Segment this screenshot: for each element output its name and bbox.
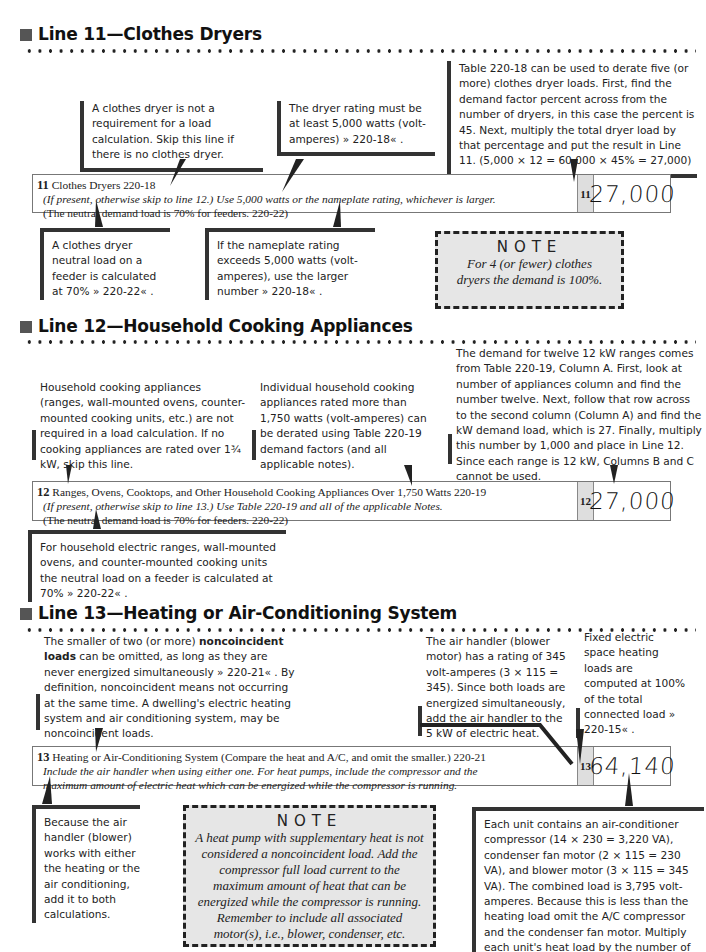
section-heading-line-13: Line 13—Heating or Air-Conditioning Syst… — [20, 603, 457, 623]
form-line-description: 13 Heating or Air-Conditioning System (C… — [37, 750, 486, 792]
callout-air-handler-both: Because the air handler (blower) works w… — [32, 805, 140, 923]
callout-nameplate-exceeds: If the nameplate rating exceeds 5,000 wa… — [205, 228, 375, 300]
dotted-rule — [24, 339, 696, 345]
form-line-description: 12 Ranges, Ovens, Cooktops, and Other Ho… — [37, 485, 486, 527]
section-heading-line-12: Line 12—Household Cooking Appliances — [20, 316, 413, 336]
callout-each-unit: Each unit contains an air-conditioner co… — [472, 807, 704, 952]
note-box-heat-pump: NOTE A heat pump with supplementary heat… — [183, 805, 436, 947]
line-value[interactable]: 27,000 — [594, 175, 672, 212]
form-line-description: 11 Clothes Dryers 220-18 (If present, ot… — [37, 178, 496, 220]
callout-cooking-neutral: For household electric ranges, wall-moun… — [28, 530, 286, 602]
square-bullet-icon — [20, 321, 32, 333]
callout-dryer-not-required: A clothes dryer is not a requirement for… — [80, 101, 263, 172]
callout-cooking-derated: Individual household cooking appliances … — [252, 380, 432, 477]
note-box-dryers: NOTE For 4 (or fewer) clothes dryers the… — [435, 231, 624, 309]
callout-air-handler: The air handler (blower motor) has a rat… — [418, 634, 568, 747]
callout-noncoincident: The smaller of two (or more) noncoincide… — [36, 634, 296, 747]
line-value[interactable]: 64,140 — [594, 747, 672, 785]
line-value[interactable]: 27,000 — [594, 482, 672, 520]
callout-dryer-rating: The dryer rating must be at least 5,000 … — [277, 101, 435, 156]
dotted-rule — [24, 48, 696, 54]
callout-cooking-not-required: Household cooking appliances (ranges, wa… — [32, 380, 246, 477]
callout-fixed-heating: Fixed electric space heating loads are c… — [576, 630, 686, 743]
form-line-12: 12 Ranges, Ovens, Cooktops, and Other Ho… — [32, 481, 671, 521]
callout-dryer-neutral: A clothes dryer neutral load on a feeder… — [40, 228, 170, 300]
square-bullet-icon — [20, 608, 32, 620]
form-line-11: 11 Clothes Dryers 220-18 (If present, ot… — [32, 174, 671, 213]
form-line-13: 13 Heating or Air-Conditioning System (C… — [32, 746, 671, 786]
callout-table-220-19: The demand for twelve 12 kW ranges comes… — [448, 346, 702, 490]
section-heading-line-11: Line 11—Clothes Dryers — [20, 24, 262, 44]
square-bullet-icon — [20, 29, 32, 41]
callout-table-220-18: Table 220-18 can be used to derate five … — [447, 61, 697, 178]
